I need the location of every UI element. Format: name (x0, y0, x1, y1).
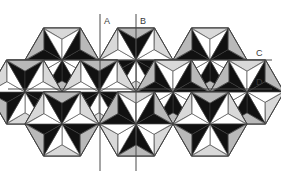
rosette-pattern-layer (0, 28, 281, 156)
reference-line-label-C: C (256, 48, 263, 58)
pattern-figure: ABCD (0, 0, 281, 171)
reference-line-label-B: B (140, 16, 146, 26)
reference-line-label-A: A (104, 16, 110, 26)
reference-line-label-D: D (256, 77, 263, 87)
tessellation-canvas: ABCD (0, 0, 281, 171)
